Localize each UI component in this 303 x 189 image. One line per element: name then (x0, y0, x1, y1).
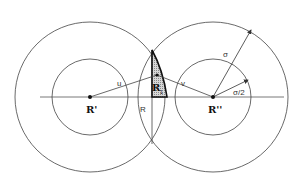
label-v: v (181, 79, 185, 88)
label-R: R (140, 105, 146, 114)
label-r1-subscript: 1 (160, 89, 163, 95)
overlapping-spheres-diagram: R' R'' R 1 u v R σ σ/2 (0, 0, 303, 189)
r-double-prime-point (211, 95, 215, 99)
label-sigma-half: σ/2 (233, 88, 245, 97)
sigma-arrow (213, 30, 251, 97)
label-r-prime: R' (86, 104, 97, 115)
r-prime-point (88, 95, 92, 99)
label-sigma: σ (223, 50, 228, 59)
label-r-double-prime: R'' (208, 104, 222, 115)
r1-point (155, 73, 158, 76)
label-u: u (117, 79, 121, 88)
